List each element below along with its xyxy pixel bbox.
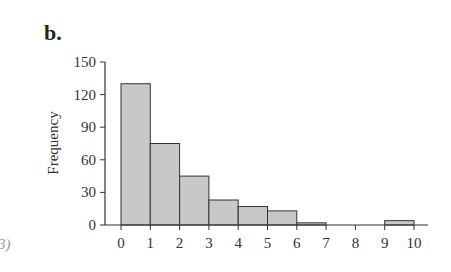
histogram-bars bbox=[121, 84, 414, 225]
histogram-bar bbox=[180, 176, 209, 225]
x-tick-label: 3 bbox=[205, 235, 213, 251]
histogram-bar bbox=[150, 144, 179, 226]
x-tick-label: 1 bbox=[147, 235, 155, 251]
y-tick-label: 120 bbox=[74, 87, 97, 103]
histogram-bar bbox=[121, 84, 150, 225]
histogram-bar bbox=[268, 211, 297, 225]
x-tick-label: 5 bbox=[264, 235, 272, 251]
x-tick-label: 7 bbox=[322, 235, 330, 251]
histogram-bar bbox=[238, 207, 267, 225]
x-tick-label: 10 bbox=[407, 235, 422, 251]
y-tick-label: 150 bbox=[74, 54, 97, 70]
histogram-bar bbox=[385, 221, 414, 225]
x-tick-label: 8 bbox=[352, 235, 360, 251]
x-tick-label: 4 bbox=[234, 235, 242, 251]
x-tick-label: 0 bbox=[117, 235, 125, 251]
y-tick-label: 60 bbox=[81, 152, 96, 168]
x-tick-label: 2 bbox=[176, 235, 184, 251]
x-tick-label: 6 bbox=[293, 235, 301, 251]
histogram-chart: 0306090120150012345678910 Frequency bbox=[0, 0, 451, 272]
histogram-bar bbox=[209, 200, 238, 225]
y-axis-title: Frequency bbox=[45, 111, 61, 175]
y-tick-label: 90 bbox=[81, 119, 96, 135]
y-tick-label: 30 bbox=[81, 184, 96, 200]
x-tick-label: 9 bbox=[381, 235, 389, 251]
y-tick-label: 0 bbox=[89, 217, 97, 233]
